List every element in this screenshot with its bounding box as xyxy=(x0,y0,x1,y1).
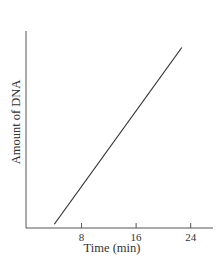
x-ticks: 81624 xyxy=(79,223,197,243)
chart: 81624 Time (min) Amount of DNA xyxy=(0,0,222,267)
x-tick-label: 24 xyxy=(185,231,197,243)
plot-area: 81624 xyxy=(26,31,213,243)
x-axis-label: Time (min) xyxy=(84,241,141,255)
y-axis-label: Amount of DNA xyxy=(9,80,23,165)
data-line xyxy=(54,48,182,225)
